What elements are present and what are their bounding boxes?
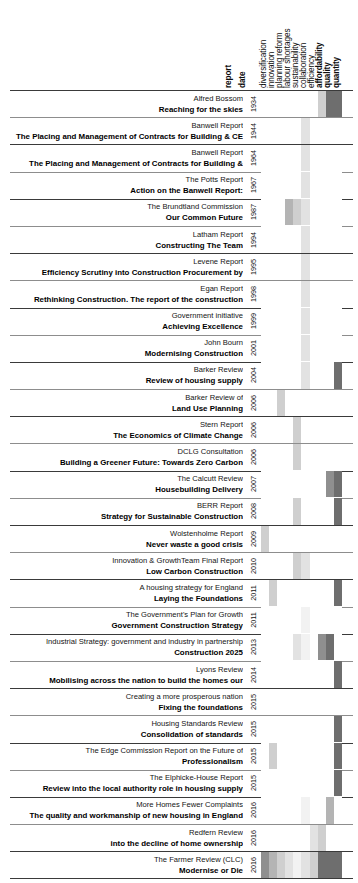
report-date-label: 2007 <box>250 476 258 492</box>
report-title-label: Land Use Planning <box>0 403 243 414</box>
report-date-label: 2016 <box>250 830 258 846</box>
heatmap-cell <box>318 770 326 796</box>
heatmap-cell <box>310 471 318 497</box>
heatmap-cell <box>334 607 342 633</box>
row-label-group: Barker ReviewReview of housing supply <box>0 362 246 389</box>
heatmap-cell <box>318 797 326 823</box>
matrix-row: BERR ReportStrategy for Sustainable Cons… <box>0 498 358 525</box>
report-date-cell: 2015 <box>248 743 259 770</box>
heatmap-cell-row <box>261 199 342 225</box>
heatmap-cell <box>293 118 301 144</box>
heatmap-cell <box>261 607 269 633</box>
report-title-label: Building a Greener Future: Towards Zero … <box>0 457 243 468</box>
heatmap-cell <box>334 444 342 470</box>
heatmap-cell <box>318 526 326 552</box>
report-title-label: Laying the Foundations <box>0 593 243 604</box>
heatmap-cell <box>277 335 285 361</box>
heatmap-cell <box>277 743 285 769</box>
heatmap-cell <box>269 797 277 823</box>
matrix-row: Egan ReportRethinking Construction. The … <box>0 280 358 307</box>
report-source-label: Barker Review of <box>0 392 243 403</box>
heatmap-cell-row <box>261 580 342 606</box>
heatmap-cell-row <box>261 471 342 497</box>
heatmap-cell <box>285 172 293 198</box>
heatmap-cell <box>326 689 334 715</box>
report-date-cell: 2016 <box>248 851 259 878</box>
heatmap-cell <box>326 498 334 524</box>
heatmap-cell <box>269 308 277 334</box>
report-date-cell: 2006 <box>248 389 259 416</box>
heatmap-cell <box>301 118 309 144</box>
report-date-label: 2010 <box>250 558 258 574</box>
heatmap-cell-row <box>261 743 342 769</box>
heatmap-cell <box>334 471 342 497</box>
heatmap-cell <box>269 743 277 769</box>
heatmap-cell <box>261 145 269 171</box>
report-source-label: Banwell Report <box>0 147 243 158</box>
heatmap-cell-row <box>261 172 342 198</box>
row-label-group: Innovation & GrowthTeam Final ReportLow … <box>0 552 246 579</box>
heatmap-cell <box>277 308 285 334</box>
heatmap-cell <box>285 335 293 361</box>
report-title-label: Constructing The Team <box>0 240 243 251</box>
report-title-label: The Economics of Climate Change <box>0 430 243 441</box>
report-date-label: 1995 <box>250 259 258 275</box>
heatmap-cell <box>261 852 269 878</box>
report-source-label: Stern Report <box>0 419 243 430</box>
heatmap-cell <box>269 634 277 660</box>
heatmap-cell <box>318 226 326 252</box>
report-source-label: Creating a more prosperous nation <box>0 691 243 702</box>
report-date-label: 1964 <box>250 150 258 166</box>
heatmap-cell <box>301 689 309 715</box>
heatmap-cell <box>326 580 334 606</box>
heatmap-cell <box>334 335 342 361</box>
heatmap-cell <box>269 145 277 171</box>
heatmap-cell <box>310 172 318 198</box>
report-title-label: Reaching for the skies <box>0 104 243 115</box>
heatmap-cell <box>318 498 326 524</box>
report-source-label: The Brundtland Commission <box>0 201 243 212</box>
report-date-cell: 2013 <box>248 634 259 661</box>
heatmap-cell <box>310 226 318 252</box>
heatmap-cell <box>301 471 309 497</box>
heatmap-cell <box>293 689 301 715</box>
heatmap-cell <box>293 308 301 334</box>
heatmap-cell <box>326 661 334 687</box>
report-source-label: John Bourn <box>0 337 243 348</box>
heatmap-cell <box>277 661 285 687</box>
heatmap-cell <box>269 498 277 524</box>
heatmap-cell <box>318 607 326 633</box>
matrix-row: Barker ReviewReview of housing supply200… <box>0 362 358 389</box>
heatmap-cell <box>269 281 277 307</box>
heatmap-cell <box>326 281 334 307</box>
report-date-cell: 1987 <box>248 199 259 226</box>
report-date-cell: 2004 <box>248 362 259 389</box>
heatmap-cell <box>293 145 301 171</box>
report-source-label: The Farmer Review (CLC) <box>0 854 243 865</box>
heatmap-cell <box>285 362 293 388</box>
matrix-row: The Brundtland CommissionOur Common Futu… <box>0 199 358 226</box>
heatmap-cell-row <box>261 335 342 361</box>
report-date-label: 2016 <box>250 802 258 818</box>
row-label-group: Barker Review ofLand Use Planning <box>0 389 246 416</box>
heatmap-cell <box>277 634 285 660</box>
heatmap-cell <box>334 770 342 796</box>
heatmap-cell <box>293 199 301 225</box>
matrix-row: Stern ReportThe Economics of Climate Cha… <box>0 416 358 443</box>
heatmap-cell <box>310 254 318 280</box>
heatmap-cell <box>301 634 309 660</box>
heatmap-cell <box>277 91 285 117</box>
heatmap-cell <box>301 661 309 687</box>
heatmap-cell <box>326 852 334 878</box>
heatmap-cell <box>285 526 293 552</box>
heatmap-cell <box>277 580 285 606</box>
report-date-label: 2011 <box>250 585 258 600</box>
heatmap-cell <box>285 689 293 715</box>
heatmap-cell <box>301 145 309 171</box>
heatmap-cell <box>293 634 301 660</box>
heatmap-cell <box>285 716 293 742</box>
heatmap-cell <box>269 553 277 579</box>
heatmap-cell <box>277 444 285 470</box>
heatmap-cell <box>269 661 277 687</box>
